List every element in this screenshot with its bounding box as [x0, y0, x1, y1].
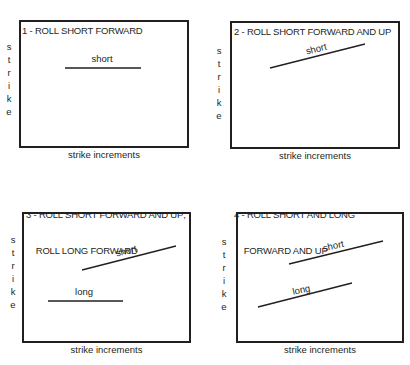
diagram-lines-layer: short short short long short long	[0, 0, 410, 365]
panel-3-long-label: long	[75, 286, 93, 297]
panel-1-short-label: short	[91, 53, 112, 64]
